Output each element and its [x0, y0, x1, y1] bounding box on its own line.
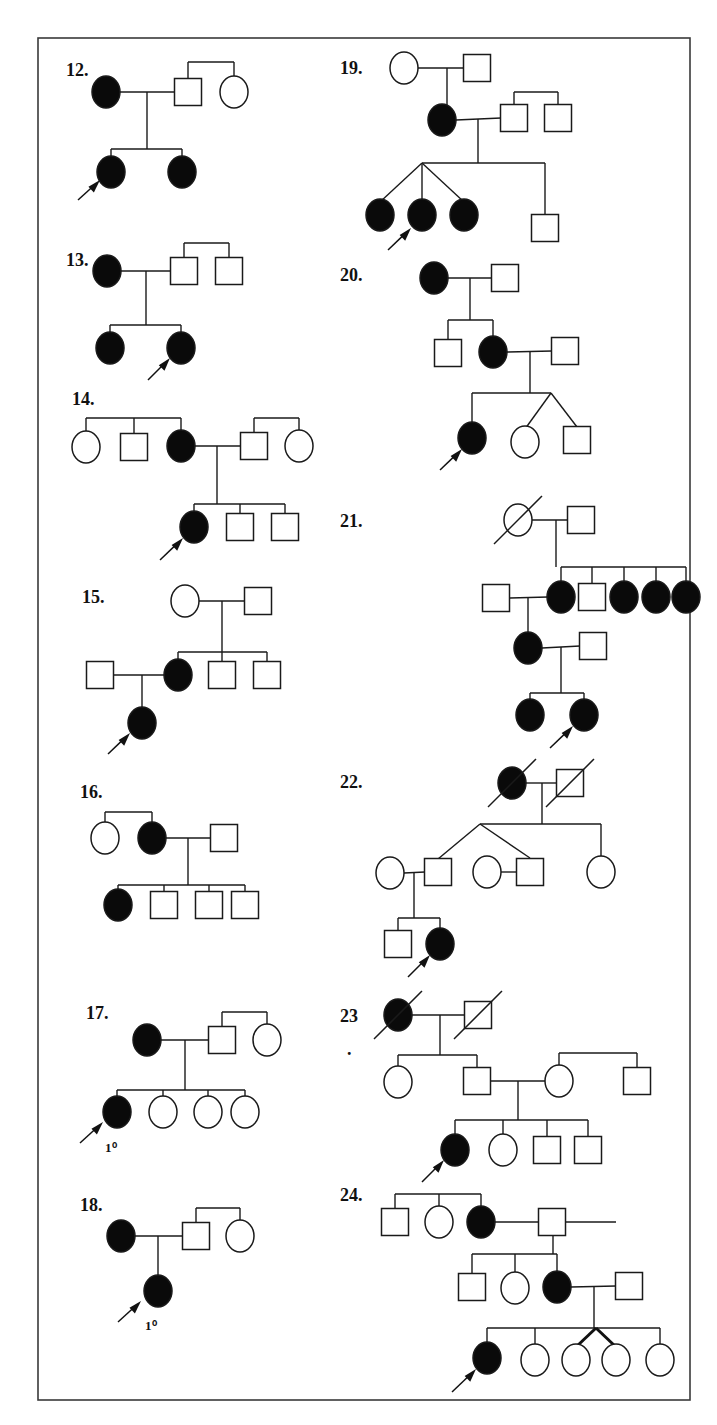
uncle-male-1[interactable] — [209, 662, 236, 689]
pedigree-23-number-label-period: . — [347, 1039, 352, 1059]
mother-affected-female[interactable] — [428, 104, 456, 136]
aunt-female[interactable] — [376, 857, 404, 889]
gen1-female-sibling[interactable] — [220, 76, 248, 108]
gen1-male-partner[interactable] — [171, 258, 198, 285]
grandmother-female[interactable] — [171, 585, 199, 617]
proband-affected-female[interactable] — [458, 422, 486, 454]
gen2-proband-female[interactable] — [167, 332, 195, 364]
grandmother-affected-female[interactable] — [420, 262, 448, 294]
father-male[interactable] — [464, 1068, 491, 1095]
aunt-affected-female-2[interactable] — [642, 581, 670, 613]
gen1-male-partner[interactable] — [175, 79, 202, 106]
aunt-affected-female-3[interactable] — [672, 581, 700, 613]
aunt-female-3[interactable] — [587, 856, 615, 888]
proband-affected-female[interactable] — [441, 1134, 469, 1166]
proband-affected-female[interactable] — [180, 511, 208, 543]
gen3-affected-female[interactable] — [514, 632, 542, 664]
gen2-affected-female[interactable] — [168, 156, 196, 188]
aunt-affected-female-1[interactable] — [610, 581, 638, 613]
twin-male[interactable] — [564, 427, 591, 454]
father-sister-female[interactable] — [226, 1220, 254, 1252]
mother-affected-female[interactable] — [164, 659, 192, 691]
great-uncle-male[interactable] — [382, 1209, 409, 1236]
father-male[interactable] — [552, 338, 579, 365]
father-male[interactable] — [616, 1273, 643, 1300]
twin-sister-2[interactable] — [602, 1344, 630, 1376]
uncle-male-2[interactable] — [254, 662, 281, 689]
gen1-affected-female[interactable] — [92, 76, 120, 108]
great-aunt-female[interactable] — [425, 1206, 453, 1238]
father-brother-male[interactable] — [545, 105, 572, 132]
proband-affected-female[interactable] — [103, 1096, 131, 1128]
grandfather-male[interactable] — [245, 588, 272, 615]
aunt-female[interactable] — [501, 1272, 529, 1304]
twin-female[interactable] — [511, 426, 539, 458]
aunt-female[interactable] — [384, 1066, 412, 1098]
mother-affected-female[interactable] — [479, 336, 507, 368]
mother-affected-female[interactable] — [543, 1271, 571, 1303]
brother-male-2[interactable] — [272, 514, 299, 541]
twin-sister-1[interactable] — [562, 1344, 590, 1376]
aunt-female-2[interactable] — [473, 856, 501, 888]
aunt-female[interactable] — [72, 431, 100, 463]
brother-male-2[interactable] — [575, 1137, 602, 1164]
triplet-affected-female-3[interactable] — [450, 199, 478, 231]
father-sister-female[interactable] — [253, 1024, 281, 1056]
gen4-affected-female[interactable] — [516, 699, 544, 731]
sister-female[interactable] — [489, 1134, 517, 1166]
mother-affected-female[interactable] — [138, 822, 166, 854]
uncle-male[interactable] — [435, 340, 462, 367]
uncle-male[interactable] — [517, 859, 544, 886]
uncle-male[interactable] — [121, 434, 148, 461]
brother-male-3[interactable] — [232, 892, 259, 919]
father-male[interactable] — [209, 1027, 236, 1054]
gen2-proband-female[interactable] — [97, 156, 125, 188]
father-male[interactable] — [501, 105, 528, 132]
great-grandfather-male[interactable] — [539, 1209, 566, 1236]
proband-affected-female[interactable] — [426, 928, 454, 960]
grandfather-male[interactable] — [568, 507, 595, 534]
sister-female-3[interactable] — [231, 1096, 259, 1128]
brother-male[interactable] — [532, 215, 559, 242]
aunt-female[interactable] — [91, 822, 119, 854]
sister-female-1[interactable] — [521, 1344, 549, 1376]
grandfather-male[interactable] — [492, 265, 519, 292]
sister-female-1[interactable] — [149, 1096, 177, 1128]
father-sister-female[interactable] — [285, 430, 313, 462]
uncle-male[interactable] — [459, 1274, 486, 1301]
sister-female-2[interactable] — [194, 1096, 222, 1128]
proband-affected-female[interactable] — [128, 707, 156, 739]
father-male[interactable] — [211, 825, 238, 852]
mother-affected-female[interactable] — [547, 581, 575, 613]
father-male[interactable] — [483, 585, 510, 612]
proband-affected-female[interactable] — [570, 699, 598, 731]
father-male[interactable] — [241, 433, 268, 460]
gen1-male-sibling[interactable] — [216, 258, 243, 285]
grandfather-male[interactable] — [464, 55, 491, 82]
brother-male-1[interactable] — [534, 1137, 561, 1164]
mother-affected-female[interactable] — [133, 1024, 161, 1056]
brother-male-1[interactable] — [151, 892, 178, 919]
mother-female[interactable] — [545, 1065, 573, 1097]
mother-affected-female[interactable] — [107, 1220, 135, 1252]
brother-male-1[interactable] — [227, 514, 254, 541]
uncle-male[interactable] — [579, 584, 606, 611]
gen1-affected-female[interactable] — [93, 255, 121, 287]
gen2-affected-female[interactable] — [96, 332, 124, 364]
father-male[interactable] — [183, 1223, 210, 1250]
grandmother-female[interactable] — [390, 52, 418, 84]
father-male[interactable] — [425, 859, 452, 886]
brother-male[interactable] — [385, 931, 412, 958]
father-male[interactable] — [87, 662, 114, 689]
great-grandmother-affected-female[interactable] — [467, 1206, 495, 1238]
proband-affected-female[interactable] — [104, 889, 132, 921]
mother-affected-female[interactable] — [167, 430, 195, 462]
triplet-proband-female[interactable] — [408, 199, 436, 231]
brother-male-2[interactable] — [196, 892, 223, 919]
sister-female-2[interactable] — [646, 1344, 674, 1376]
triplet-affected-female-1[interactable] — [366, 199, 394, 231]
gen3-male-partner[interactable] — [580, 633, 607, 660]
proband-affected-female[interactable] — [144, 1275, 172, 1307]
mother-brother-male[interactable] — [624, 1068, 651, 1095]
proband-affected-female[interactable] — [473, 1342, 501, 1374]
